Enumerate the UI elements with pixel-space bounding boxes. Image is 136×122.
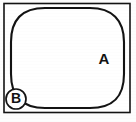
region-label-b-group: B [6, 89, 26, 109]
region-label-b: B [11, 90, 21, 106]
figure-drawing: A B [0, 0, 136, 122]
figure-canvas: A B [0, 0, 136, 122]
region-label-a: A [99, 50, 110, 67]
